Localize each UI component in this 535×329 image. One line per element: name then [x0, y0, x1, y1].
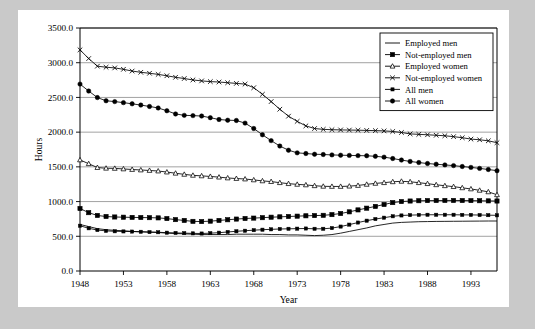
data-point-marker [278, 227, 281, 230]
data-point-marker [461, 213, 464, 216]
data-point-marker [390, 99, 394, 103]
x-tick-label: 1983 [375, 279, 394, 289]
data-point-marker [86, 89, 90, 93]
legend-label: All women [405, 96, 444, 106]
data-point-marker [104, 229, 107, 232]
data-point-marker [95, 213, 99, 217]
y-tick-label: 2500.0 [48, 93, 74, 103]
data-point-marker [270, 228, 273, 231]
data-point-marker [278, 107, 283, 112]
data-point-marker [139, 103, 143, 107]
data-point-marker [104, 214, 108, 218]
data-point-marker [417, 213, 420, 216]
data-point-marker [200, 232, 203, 235]
data-point-marker [356, 221, 359, 224]
data-point-marker [87, 211, 91, 215]
data-point-marker [269, 138, 273, 142]
series-not-employed-men [78, 198, 499, 223]
data-point-marker [165, 109, 169, 113]
data-point-marker [364, 154, 368, 158]
data-point-marker [113, 215, 117, 219]
data-point-marker [391, 88, 394, 91]
data-point-marker [374, 217, 377, 220]
data-point-marker [252, 216, 256, 220]
data-point-marker [104, 99, 108, 103]
data-point-marker [269, 215, 273, 219]
data-point-marker [399, 199, 403, 203]
data-point-marker [95, 95, 99, 99]
y-tick-label: 1500.0 [48, 162, 74, 172]
x-tick-label: 1958 [158, 279, 177, 289]
x-tick-label: 1993 [462, 279, 481, 289]
data-point-marker [260, 92, 265, 97]
data-point-marker [157, 231, 160, 234]
data-point-marker [356, 153, 360, 157]
x-axis-ticks: 1948195319581963196819731978198319881993 [71, 271, 481, 289]
data-point-marker [330, 226, 333, 229]
data-point-marker [330, 213, 334, 217]
x-tick-label: 1953 [114, 279, 133, 289]
data-point-marker [322, 227, 325, 230]
data-point-marker [278, 144, 282, 148]
data-point-marker [391, 215, 394, 218]
data-point-marker [121, 100, 125, 104]
data-point-marker [260, 216, 264, 220]
figure-panel: 0.0500.01000.01500.02000.02500.03000.035… [18, 10, 509, 307]
data-point-marker [348, 223, 351, 226]
data-point-marker [252, 229, 255, 232]
data-point-marker [269, 99, 274, 104]
data-point-marker [183, 232, 186, 235]
data-point-marker [286, 114, 291, 119]
data-point-marker [495, 199, 499, 203]
data-point-marker [365, 219, 368, 222]
y-tick-label: 0.0 [62, 266, 74, 276]
legend-label: Employed men [405, 38, 458, 48]
data-point-marker [278, 215, 282, 219]
data-point-marker [217, 117, 221, 121]
data-point-marker [139, 230, 142, 233]
data-point-marker [460, 198, 464, 202]
x-tick-label: 1963 [201, 279, 220, 289]
data-point-marker [78, 206, 82, 210]
data-point-marker [330, 153, 334, 157]
data-point-marker [226, 218, 230, 222]
data-point-marker [312, 213, 316, 217]
data-point-marker [417, 160, 421, 164]
data-point-marker [435, 213, 438, 216]
data-point-marker [252, 126, 256, 130]
data-point-marker [487, 214, 490, 217]
data-point-marker [304, 227, 307, 230]
data-point-marker [199, 114, 203, 118]
x-tick-label: 1948 [71, 279, 90, 289]
data-point-marker [113, 230, 116, 233]
data-point-marker [243, 229, 246, 232]
x-tick-label: 1988 [418, 279, 437, 289]
data-point-marker [208, 116, 212, 120]
y-tick-label: 3000.0 [48, 58, 74, 68]
data-point-marker [191, 232, 194, 235]
data-point-marker [495, 214, 498, 217]
data-point-marker [78, 157, 83, 161]
data-point-marker [313, 227, 316, 230]
data-point-marker [469, 198, 473, 202]
data-point-marker [495, 168, 499, 172]
data-point-marker [217, 231, 220, 234]
data-point-marker [443, 198, 447, 202]
data-point-marker [235, 230, 238, 233]
data-point-marker [382, 202, 386, 206]
data-point-marker [425, 198, 429, 202]
data-point-marker [225, 118, 229, 122]
y-tick-label: 3500.0 [48, 23, 74, 33]
data-point-marker [486, 167, 490, 171]
x-tick-label: 1973 [288, 279, 307, 289]
data-point-marker [365, 206, 369, 210]
data-point-marker [139, 215, 143, 219]
data-point-marker [173, 218, 177, 222]
data-point-marker [408, 199, 412, 203]
y-axis-ticks: 0.0500.01000.01500.02000.02500.03000.035… [48, 23, 80, 276]
data-point-marker [304, 124, 309, 129]
data-point-marker [147, 104, 151, 108]
legend-label: All men [405, 85, 434, 95]
x-tick-label: 1968 [245, 279, 264, 289]
data-point-marker [417, 199, 421, 203]
